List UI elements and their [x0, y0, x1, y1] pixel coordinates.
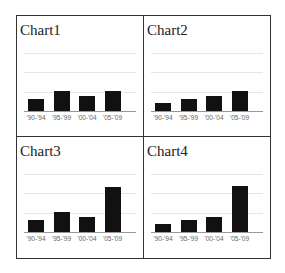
bar — [54, 91, 70, 111]
x-tick-label: '00-'04 — [74, 235, 100, 242]
bar — [105, 187, 121, 232]
bar — [206, 96, 222, 111]
bar — [28, 220, 44, 232]
bar — [28, 99, 44, 111]
gridline — [151, 53, 263, 54]
bar — [181, 99, 197, 111]
gridline — [151, 174, 263, 175]
bar — [155, 103, 171, 111]
x-tick-label: '90-'94 — [23, 235, 49, 242]
bar — [206, 217, 222, 232]
gridline — [24, 53, 136, 54]
plot-area: '90-'94'95-'99'00-'04'05-'09 — [151, 158, 263, 232]
x-tick-label: '05-'09 — [227, 235, 253, 242]
bar — [181, 220, 197, 232]
chart-panel-1: Chart1'90-'94'95-'99'00-'04'05-'09 — [16, 15, 143, 136]
x-axis-baseline — [151, 232, 263, 233]
gridline — [151, 72, 263, 73]
x-tick-label: '95-'99 — [49, 235, 75, 242]
bar — [79, 217, 95, 232]
x-tick-label: '00-'04 — [201, 114, 227, 121]
x-tick-label: '90-'94 — [23, 114, 49, 121]
x-tick-label: '05-'09 — [227, 114, 253, 121]
plot-area: '90-'94'95-'99'00-'04'05-'09 — [151, 37, 263, 111]
x-tick-label: '05-'09 — [100, 114, 126, 121]
x-axis-baseline — [24, 232, 136, 233]
x-tick-label: '00-'04 — [201, 235, 227, 242]
chart-panel-2: Chart2'90-'94'95-'99'00-'04'05-'09 — [143, 15, 270, 136]
x-axis-baseline — [24, 111, 136, 112]
bar — [54, 212, 70, 232]
chart-panel-4: Chart4'90-'94'95-'99'00-'04'05-'09 — [143, 136, 270, 257]
x-tick-label: '90-'94 — [150, 114, 176, 121]
plot-area: '90-'94'95-'99'00-'04'05-'09 — [24, 158, 136, 232]
chart-panel-3: Chart3'90-'94'95-'99'00-'04'05-'09 — [16, 136, 143, 257]
bar — [232, 91, 248, 111]
gridline — [24, 174, 136, 175]
x-tick-label: '95-'99 — [176, 114, 202, 121]
gridline — [24, 72, 136, 73]
x-tick-label: '95-'99 — [49, 114, 75, 121]
x-tick-label: '90-'94 — [150, 235, 176, 242]
bar — [79, 96, 95, 111]
plot-area: '90-'94'95-'99'00-'04'05-'09 — [24, 37, 136, 111]
bar — [232, 186, 248, 232]
bar — [105, 91, 121, 111]
x-axis-baseline — [151, 111, 263, 112]
x-tick-label: '00-'04 — [74, 114, 100, 121]
bar — [155, 224, 171, 232]
x-tick-label: '95-'99 — [176, 235, 202, 242]
x-tick-label: '05-'09 — [100, 235, 126, 242]
